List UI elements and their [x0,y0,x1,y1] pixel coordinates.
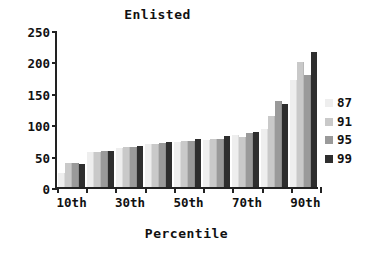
bar [195,139,201,187]
legend-swatch-icon [325,155,333,163]
bar [72,163,79,187]
bar [297,62,304,187]
legend: 87919599 [325,97,352,165]
bar [94,152,101,187]
legend-swatch-icon [325,118,333,126]
x-axis-tick-label: 70th [232,195,262,210]
x-axis-tick-mark [86,187,88,193]
bar [159,143,166,187]
bar [130,147,137,187]
x-axis-tick-label: 50th [173,195,203,210]
bar [246,133,253,187]
bar [116,148,123,187]
x-axis-tick-label: 10th [57,195,87,210]
bar [203,140,210,187]
bar [224,136,230,187]
x-axis-tick-mark [320,187,322,193]
x-axis-title: Percentile [55,226,318,241]
bar [210,139,217,187]
x-axis-tick-mark [57,187,59,193]
bar [87,152,94,187]
legend-label: 99 [337,153,352,166]
bar [232,135,239,187]
bar [304,75,311,187]
x-axis-tick-mark [115,187,117,193]
x-axis-tick-mark [232,187,234,193]
x-axis-tick-mark [174,187,176,193]
legend-item: 99 [325,153,352,166]
bar [145,144,152,187]
bar [311,52,317,187]
bar [181,141,188,187]
y-axis-tick-label: 200 [11,56,57,71]
x-axis-tick-mark [145,187,147,193]
bar-group [231,32,260,187]
bar-group [173,32,202,187]
x-axis-tick-mark [262,187,264,193]
bar-group [144,32,173,187]
legend-item: 87 [325,97,352,110]
y-axis-tick-label: 50 [11,150,57,165]
bar [137,146,143,187]
legend-label: 87 [337,97,352,110]
legend-item: 95 [325,134,352,147]
y-axis-tick-label: 150 [11,87,57,102]
legend-swatch-icon [325,136,333,144]
bar [79,164,85,187]
x-axis-tick-label: 30th [115,195,145,210]
bar [275,101,282,187]
bar [108,151,114,187]
bar [239,137,246,187]
bar-groups-container [57,32,318,187]
legend-label: 91 [337,116,352,129]
bar [217,139,224,187]
y-axis-tick-label: 100 [11,119,57,134]
bar [290,80,297,187]
y-axis-tick-label: 0 [11,182,57,197]
bar-group [86,32,115,187]
bar [166,142,172,187]
legend-item: 91 [325,116,352,129]
y-axis-tick-label: 250 [11,25,57,40]
bar-group [202,32,231,187]
x-axis-tick-label: 90th [290,195,320,210]
plot-area: 050100150200250 10th30th50th70th90th [55,32,318,189]
bar [123,147,130,187]
bar [174,142,181,187]
bar-chart: Enlisted 050100150200250 10th30th50th70t… [0,0,370,253]
bar [188,141,195,187]
x-axis-tick-mark [203,187,205,193]
legend-label: 95 [337,134,352,147]
bar-group [115,32,144,187]
bar [282,104,288,187]
bar [268,116,275,187]
bar [58,173,65,187]
legend-swatch-icon [325,99,333,107]
chart-title: Enlisted [0,7,315,22]
bar-group [260,32,289,187]
bar [261,129,268,187]
bar [253,132,259,187]
bar-group [289,32,318,187]
x-axis-tick-mark [291,187,293,193]
bar-group [57,32,86,187]
bar [65,163,72,187]
bar [152,144,159,187]
bar [101,151,108,187]
